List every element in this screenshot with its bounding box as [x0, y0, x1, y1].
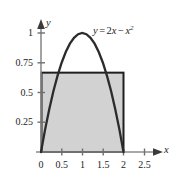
x-tick-label-0: 0 [39, 160, 44, 170]
y-axis-label: y [46, 18, 51, 29]
equation-annotation: y=2x−x2 [93, 26, 134, 37]
x-tick-label-0.5: 0.5 [56, 160, 69, 170]
equation-term1-var: x [112, 25, 117, 36]
equation-equals: = [98, 25, 107, 36]
x-tick-label-2.5: 2.5 [138, 160, 151, 170]
figure-container: 1 0.75 0.5 0.25 0 0.5 1 1.5 2 2.5 y x y=… [0, 0, 172, 179]
x-tick-label-1.5: 1.5 [97, 160, 110, 170]
equation-lhs: y [93, 25, 98, 36]
equation-term2-exponent: 2 [130, 24, 134, 32]
x-axis-label: x [164, 145, 169, 156]
shaded-region-rectangle [42, 73, 124, 152]
y-tick-label-1: 1 [0, 28, 33, 38]
y-tick-label-0.25: 0.25 [0, 117, 33, 127]
x-tick-label-2: 2 [121, 160, 126, 170]
y-axis-arrow [37, 19, 45, 29]
x-axis-arrow [153, 148, 163, 156]
x-tick-label-1: 1 [80, 160, 85, 170]
y-tick-label-0.5: 0.5 [0, 88, 33, 98]
y-tick-label-0.75: 0.75 [0, 58, 33, 68]
